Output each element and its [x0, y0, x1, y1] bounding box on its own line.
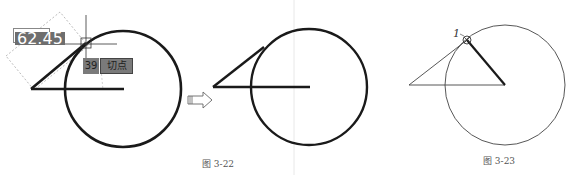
tangent-line: [31, 43, 86, 89]
right-hollow-arrow-icon: [188, 92, 212, 108]
dimension-input[interactable]: 62.45: [13, 28, 50, 43]
point-label: 1: [453, 27, 460, 40]
caption-fig-3-23: 图 3-23: [483, 154, 515, 167]
diagram-canvas: [0, 0, 575, 175]
tangent-line: [213, 47, 264, 87]
caption-fig-3-22: 图 3-22: [202, 157, 234, 170]
radius-line: [467, 40, 505, 85]
leader-line: [460, 34, 464, 36]
figure-3-23: [409, 25, 565, 145]
figure-3-22-right: [213, 29, 367, 145]
tangent-line: [409, 40, 467, 85]
angle-tooltip-value: 39: [83, 58, 99, 74]
dimension-value: 62.45: [15, 32, 65, 45]
tangent-snap-tooltip: 切点: [100, 58, 133, 74]
